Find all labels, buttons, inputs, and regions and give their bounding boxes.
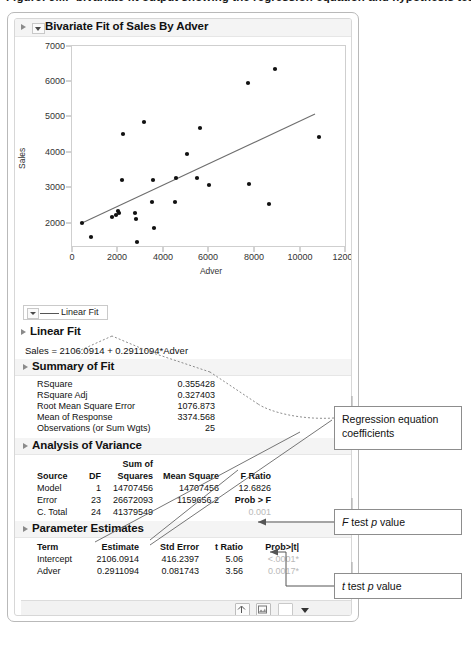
anova-row-error-ss: 26672093 (103, 495, 153, 505)
row-label-rmse: Root Mean Square Error (37, 401, 135, 411)
legend-line-swatch (40, 313, 59, 314)
annotation-t-test-p-value: t test p value (334, 573, 462, 599)
row-label-rsquare-adj: RSquare Adj (37, 390, 88, 400)
pe-header-prob-t: Prob>|t| (247, 542, 299, 552)
anova-row-error-source: Error (37, 495, 57, 505)
home-icon[interactable] (235, 603, 250, 616)
pe-header-t-ratio: t Ratio (203, 542, 243, 552)
pe-row-adver-std-error: 0.081743 (143, 566, 199, 576)
annotation-f-mid: test (348, 516, 371, 528)
annotation-f-test-p-value: F test p value (334, 509, 462, 535)
anova-header-sum-of: Sum of (103, 459, 153, 469)
image-icon[interactable] (256, 603, 271, 616)
pe-row-intercept-estimate: 2106.0914 (77, 554, 139, 564)
anova-row-model-ss: 14707456 (103, 483, 153, 493)
anova-row-model-f: 12.6826 (223, 483, 271, 493)
annotation-line-2: coefficients (342, 426, 454, 440)
section-title-parameter-estimates: Parameter Estimates (32, 522, 144, 534)
disclosure-triangle-icon[interactable] (21, 24, 26, 30)
row-value-rmse: 1076.873 (135, 401, 215, 411)
disclosure-triangle-icon[interactable] (21, 329, 26, 335)
pe-row-adver-t-ratio: 3.56 (203, 566, 243, 576)
regression-equation: Sales = 2106.0914 + 0.2911094*Adver (25, 345, 188, 356)
legend-chevron-down-icon[interactable] (27, 308, 39, 319)
row-value-observations: 25 (135, 423, 215, 433)
pe-row-intercept-t-ratio: 5.06 (203, 554, 243, 564)
toolbar-icon-group (233, 603, 311, 616)
disclosure-triangle-icon[interactable] (23, 443, 28, 449)
anova-header-f-ratio: F Ratio (223, 471, 271, 481)
figure-caption: Figure: JMP bivariate fit output showing… (0, 0, 471, 5)
anova-row-ctotal-source: C. Total (37, 507, 67, 517)
pe-header-estimate: Estimate (77, 542, 139, 552)
pe-header-term: Term (37, 542, 58, 552)
section-title-bivariate: Bivariate Fit of Sales By Adver (45, 20, 208, 32)
anova-row-model-ms: 14707456 (155, 483, 219, 493)
anova-row-ctotal-df: 24 (75, 507, 101, 517)
anova-prob-f-label: Prob > F (221, 495, 271, 505)
row-label-observations: Observations (or Sum Wgts) (37, 423, 151, 433)
annotation-line-1: Regression equation (342, 412, 454, 426)
section-header-anova[interactable]: Analysis of Variance (15, 438, 352, 455)
anova-header-squares: Squares (103, 471, 153, 481)
scatterplot: Sales 7000 6000 5000 4000 3000 2000 0 20… (15, 37, 352, 299)
scatter-points (80, 67, 321, 244)
row-value-mean-response: 3374.568 (135, 412, 215, 422)
anova-header-mean-square: Mean Square (155, 471, 219, 481)
pe-header-std-error: Std Error (143, 542, 199, 552)
pe-row-intercept-std-error: 416.2397 (143, 554, 199, 564)
blank-square-icon[interactable] (278, 603, 293, 616)
row-value-rsquare-adj: 0.327403 (135, 390, 215, 400)
section-title-summary-of-fit: Summary of Fit (32, 360, 114, 372)
pe-row-adver-estimate: 0.2911094 (77, 566, 139, 576)
anova-header-df: DF (75, 471, 101, 481)
legend-label: Linear Fit (61, 307, 99, 317)
anova-prob-f-value: 0.001 (221, 507, 271, 517)
annotation-t-mid: test (345, 580, 368, 592)
disclosure-triangle-icon[interactable] (23, 526, 28, 532)
anova-row-error-df: 23 (75, 495, 101, 505)
plot-canvas (15, 37, 352, 277)
anova-row-error-ms: 1159656.2 (155, 495, 219, 505)
disclosure-triangle-icon[interactable] (23, 364, 28, 370)
anova-row-model-df: 1 (75, 483, 101, 493)
chevron-down-icon[interactable] (32, 23, 45, 34)
dropdown-arrow-icon[interactable] (300, 603, 311, 616)
pe-row-intercept-term: Intercept (37, 554, 72, 564)
row-label-rsquare: RSquare (37, 379, 73, 389)
anova-row-ctotal-ss: 41379549 (103, 507, 153, 517)
row-label-mean-response: Mean of Response (37, 412, 113, 422)
pe-row-adver-prob: 0.0017* (247, 566, 299, 576)
annotation-t-suffix: value (374, 580, 402, 592)
section-header-bivariate[interactable]: Bivariate Fit of Sales By Adver (15, 19, 352, 37)
annotation-regression-coefficients: Regression equation coefficients (334, 406, 462, 450)
pe-row-adver-term: Adver (37, 566, 61, 576)
section-title-anova: Analysis of Variance (32, 439, 142, 451)
plot-legend[interactable]: Linear Fit (23, 305, 108, 320)
regression-line (82, 114, 315, 223)
section-header-summary-of-fit[interactable]: Summary of Fit (15, 359, 352, 376)
jmp-report-window: Bivariate Fit of Sales By Adver Sales 70… (7, 12, 359, 622)
section-header-linear-fit[interactable]: Linear Fit (15, 324, 352, 341)
report-bottom-toolbar (21, 600, 352, 616)
anova-header-source: Source (37, 471, 68, 481)
pe-row-intercept-prob: <.0001* (247, 554, 299, 564)
annotation-f-suffix: value (377, 516, 405, 528)
row-value-rsquare: 0.355428 (135, 379, 215, 389)
section-title-linear-fit: Linear Fit (30, 325, 81, 337)
anova-row-model-source: Model (37, 483, 62, 493)
report-scroll-pane: Bivariate Fit of Sales By Adver Sales 70… (14, 18, 352, 616)
section-header-parameter-estimates[interactable]: Parameter Estimates (15, 521, 352, 538)
